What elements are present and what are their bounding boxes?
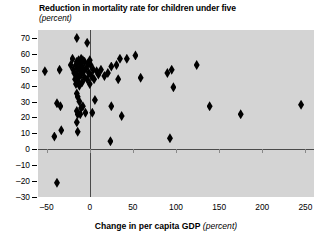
- data-point: [138, 73, 144, 83]
- y-axis-tick-label: 10: [0, 129, 30, 137]
- x-axis-tick-labels: –50050100150200250: [0, 203, 332, 217]
- x-axis-tick-label: 0: [70, 203, 110, 212]
- y-axis-tick-label: 60: [0, 50, 30, 58]
- y-axis-tick: [32, 117, 37, 118]
- data-point: [117, 54, 123, 64]
- y-axis-tick-label: 30: [0, 98, 30, 106]
- y-axis-tick: [32, 86, 37, 87]
- data-point: [51, 132, 57, 142]
- data-point: [74, 117, 80, 127]
- y-axis-tick-label: 70: [0, 34, 30, 42]
- data-point: [74, 33, 80, 43]
- data-point: [92, 95, 98, 105]
- data-point: [119, 111, 125, 121]
- x-axis-tick-label: 200: [242, 203, 282, 212]
- plot-inner: [38, 30, 314, 197]
- x-axis-tick: [305, 149, 306, 153]
- y-axis-tick: [32, 102, 37, 103]
- x-axis-tick-label: –50: [27, 203, 67, 212]
- x-axis-title-unit: (percent): [203, 221, 237, 231]
- y-axis-tick: [32, 149, 37, 150]
- data-point: [167, 133, 173, 143]
- data-point: [170, 82, 176, 92]
- y-axis-tick-label: –10: [0, 161, 30, 169]
- data-point: [58, 125, 64, 135]
- chart-title-block: Reduction in mortality rate for children…: [39, 3, 329, 24]
- y-axis-tick: [32, 70, 37, 71]
- y-axis-tick: [32, 181, 37, 182]
- data-point: [57, 65, 63, 75]
- page-title: Reduction in mortality rate for children…: [39, 3, 329, 14]
- data-point: [132, 50, 138, 60]
- data-point: [107, 136, 113, 146]
- data-point: [238, 109, 244, 119]
- y-axis-tick-label: 40: [0, 82, 30, 90]
- x-axis-tick: [90, 149, 91, 153]
- y-axis-tick-label: –20: [0, 177, 30, 185]
- data-point: [298, 100, 304, 110]
- data-point: [115, 74, 121, 84]
- data-point: [194, 60, 200, 70]
- data-point: [124, 54, 130, 64]
- x-axis-tick: [133, 149, 134, 153]
- x-axis-tick: [47, 149, 48, 153]
- x-axis-tick: [219, 149, 220, 153]
- y-axis-tick: [32, 133, 37, 134]
- y-axis-tick: [32, 38, 37, 39]
- x-axis-tick: [176, 149, 177, 153]
- x-axis-title-main: Change in per capita GDP: [95, 221, 201, 231]
- data-point: [108, 101, 114, 111]
- data-point: [75, 127, 81, 137]
- y-axis-tick-label: –30: [0, 193, 30, 201]
- y-axis-tick: [32, 165, 37, 166]
- y-axis-tick-labels: 706050403020100–10–20–30: [0, 0, 30, 237]
- data-point: [113, 60, 119, 70]
- chart-figure: Reduction in mortality rate for children…: [0, 0, 332, 237]
- x-axis-tick-label: 100: [156, 203, 196, 212]
- chart-subtitle: (percent): [39, 14, 329, 24]
- x-axis-tick-label: 50: [113, 203, 153, 212]
- data-point: [108, 62, 114, 72]
- plot-area: [38, 30, 314, 197]
- x-axis-tick-label: 150: [199, 203, 239, 212]
- data-point: [42, 66, 48, 76]
- data-point: [54, 178, 60, 188]
- y-axis-tick: [32, 197, 37, 198]
- y-axis-tick-label: 50: [0, 66, 30, 74]
- data-point: [207, 101, 213, 111]
- y-axis-tick-label: 0: [0, 145, 30, 153]
- x-axis-tick-label: 250: [285, 203, 325, 212]
- y-axis-tick-label: 20: [0, 113, 30, 121]
- x-axis-title: Change in per capita GDP (percent): [0, 221, 332, 231]
- y-axis-tick: [32, 54, 37, 55]
- x-axis-tick: [262, 149, 263, 153]
